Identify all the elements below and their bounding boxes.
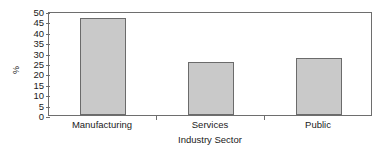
y-axis-tick-labels: 50 45 40 35 30 25 20 15 10 5 0 xyxy=(20,12,44,116)
y-tick-label: 40 xyxy=(20,28,44,38)
y-axis-tick xyxy=(46,107,50,108)
y-tick-label: 30 xyxy=(20,49,44,59)
y-tick-label: 25 xyxy=(20,60,44,70)
y-tick-label: 35 xyxy=(20,39,44,49)
y-tick-label: 45 xyxy=(20,18,44,28)
y-axis-tick xyxy=(46,75,50,76)
y-axis-tick xyxy=(46,34,50,35)
x-axis-category-label: Manufacturing xyxy=(48,119,156,131)
y-axis-tick xyxy=(46,44,50,45)
y-axis-tick xyxy=(46,65,50,66)
y-axis-tick xyxy=(46,55,50,56)
y-tick-label: 0 xyxy=(20,112,44,122)
bar-public[interactable] xyxy=(296,58,342,115)
y-tick-label: 15 xyxy=(20,80,44,90)
x-axis-category-label: Public xyxy=(264,119,372,131)
bar-chart: % 50 45 40 35 30 25 20 15 10 5 0 Manufac… xyxy=(0,0,388,159)
y-tick-label: 20 xyxy=(20,70,44,80)
bar-manufacturing[interactable] xyxy=(80,18,126,115)
y-tick-label: 50 xyxy=(20,8,44,18)
y-tick-label: 5 xyxy=(20,101,44,111)
y-axis-tick xyxy=(46,23,50,24)
y-axis-tick xyxy=(46,13,50,14)
y-axis-tick xyxy=(46,96,50,97)
y-tick-label: 10 xyxy=(20,91,44,101)
x-axis-title: Industry Sector xyxy=(48,134,372,146)
y-axis-tick xyxy=(46,117,50,118)
plot-area xyxy=(48,12,372,116)
y-axis-tick xyxy=(46,86,50,87)
bar-services[interactable] xyxy=(188,62,234,115)
x-axis-category-label: Services xyxy=(156,119,264,131)
